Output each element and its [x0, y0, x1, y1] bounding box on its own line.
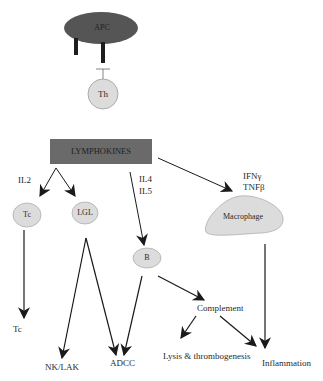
arrow-b-to-complement [158, 276, 204, 300]
arrow-lymphokines-to-macrophage [158, 158, 232, 191]
il2-label: IL2 [18, 176, 31, 185]
outcome-inflammation-label: Inflammation [262, 359, 311, 368]
outcome-tc-label: Tc [13, 325, 22, 334]
ifn-gamma-label: IFNγ [243, 172, 261, 181]
outcome-lysis-label: Lysis & thrombogenesis [163, 352, 251, 361]
arrows-il2 [40, 168, 75, 196]
b-cell-label: B [144, 254, 149, 262]
apc-label: APC [94, 24, 110, 32]
arrow-complement-to-inflammation [220, 316, 256, 346]
apc-receptor-right [101, 42, 105, 63]
il5-label: IL5 [139, 187, 152, 196]
arrow-lgl-to-adcc [86, 238, 116, 355]
tnf-beta-label: TNFβ [243, 183, 265, 192]
th-binding-connector [96, 69, 110, 79]
th-label: Th [98, 90, 108, 99]
arrow-lgl-to-nklak [62, 238, 86, 358]
diagram-canvas [0, 0, 323, 381]
immune-response-diagram: APC Th LYMPHOKINES Tc LGL B Macrophage I… [0, 0, 323, 381]
arrow-b-to-adcc [124, 276, 142, 355]
lymphokines-label: LYMPHOKINES [71, 147, 131, 156]
macrophage-label: Macrophage [223, 213, 263, 221]
lgl-cell-label: LGL [77, 209, 93, 217]
complement-label: Complement [197, 304, 244, 313]
tc-cell-label: Tc [23, 211, 31, 219]
apc-cell [64, 12, 138, 63]
apc-receptor-left [74, 38, 78, 55]
il4-label: IL4 [139, 175, 152, 184]
outcome-nklak-label: NK/LAK [45, 363, 79, 372]
outcome-adcc-label: ADCC [110, 359, 135, 368]
arrow-complement-to-lysis [181, 316, 196, 338]
